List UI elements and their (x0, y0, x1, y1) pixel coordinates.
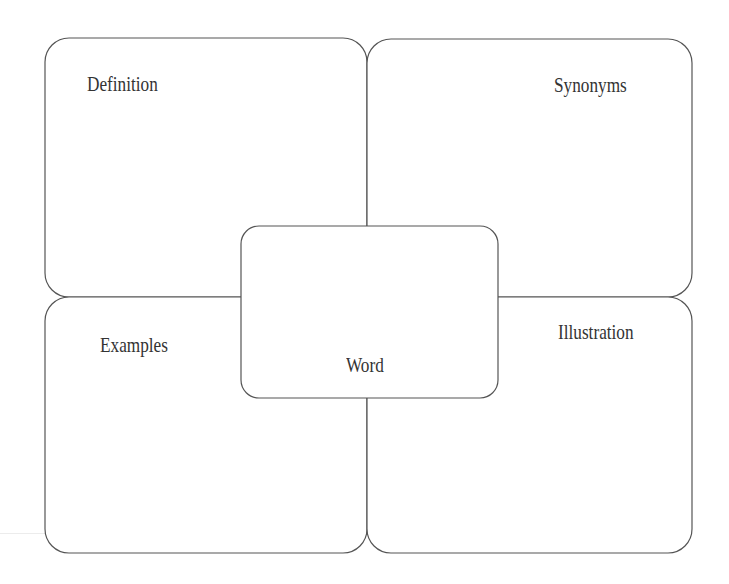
label-definition: Definition (87, 72, 158, 97)
label-synonyms: Synonyms (554, 73, 627, 98)
label-illustration: Illustration (558, 320, 634, 345)
label-word: Word (346, 353, 384, 378)
label-examples: Examples (100, 333, 168, 358)
